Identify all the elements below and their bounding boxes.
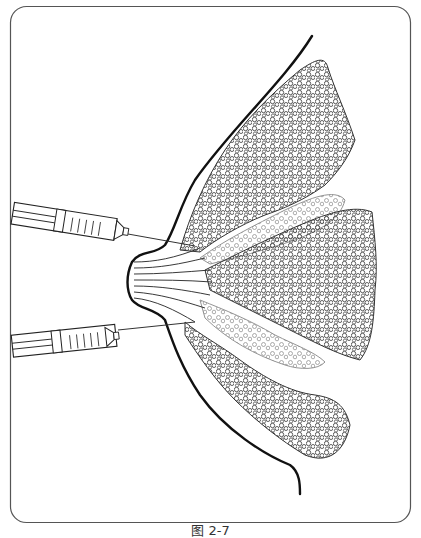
lobules <box>180 60 376 458</box>
lower-syringe <box>11 324 120 357</box>
upper-syringe <box>11 202 130 242</box>
lower-needle <box>118 322 195 330</box>
figure-caption: 图 2-7 <box>0 524 421 538</box>
lactiferous-ducts <box>134 248 212 322</box>
